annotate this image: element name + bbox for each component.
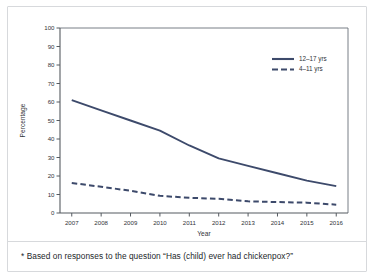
y-tick-label: 20: [48, 172, 55, 179]
x-tick-label: 2010: [153, 219, 167, 226]
x-axis: 2007200820092010201120122013201420152016…: [60, 213, 348, 237]
y-tick-label: 100: [44, 24, 55, 31]
footnote-text: * Based on responses to the question “Ha…: [8, 252, 303, 262]
x-tick-group: 2007200820092010201120122013201420152016: [65, 213, 344, 226]
x-axis-title: Year: [197, 230, 211, 237]
x-tick-label: 2011: [183, 219, 197, 226]
y-tick-label: 90: [48, 43, 55, 50]
figure-card: 0102030405060708090100 Percentage 200720…: [7, 6, 367, 272]
legend-label-1: 12–17 yrs: [299, 55, 327, 63]
y-tick-label: 50: [48, 117, 55, 124]
chart-legend: 12–17 yrs4–11 yrs: [272, 55, 327, 74]
series-line-1: [72, 100, 336, 186]
footnote-row: * Based on responses to the question “Ha…: [8, 242, 366, 271]
x-tick-label: 2012: [212, 219, 226, 226]
chart-plot-region: 0102030405060708090100 Percentage 200720…: [8, 7, 366, 240]
y-tick-label: 40: [48, 135, 55, 142]
series-line-2: [72, 183, 336, 205]
x-tick-label: 2013: [241, 219, 255, 226]
line-chart: 0102030405060708090100 Percentage 200720…: [8, 7, 366, 240]
y-tick-group: 0102030405060708090100: [44, 24, 60, 216]
x-tick-label: 2007: [65, 219, 79, 226]
y-tick-label: 30: [48, 154, 55, 161]
x-tick-label: 2016: [329, 219, 343, 226]
series-group: [72, 100, 336, 205]
x-tick-label: 2015: [300, 219, 314, 226]
x-tick-label: 2008: [94, 219, 108, 226]
y-axis: 0102030405060708090100 Percentage: [19, 24, 60, 216]
y-tick-label: 0: [51, 209, 55, 216]
y-tick-label: 10: [48, 191, 55, 198]
y-axis-title: Percentage: [19, 103, 27, 137]
y-tick-label: 80: [48, 61, 55, 68]
x-tick-label: 2014: [271, 219, 285, 226]
legend-label-2: 4–11 yrs: [299, 65, 323, 73]
x-tick-label: 2009: [124, 219, 138, 226]
y-tick-label: 70: [48, 80, 55, 87]
y-tick-label: 60: [48, 98, 55, 105]
